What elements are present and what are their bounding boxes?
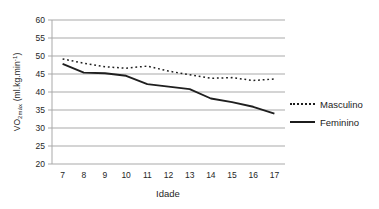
y-tick-label: 50 bbox=[36, 51, 46, 61]
x-tick-label: 14 bbox=[206, 170, 216, 180]
solid-line-sample-icon bbox=[290, 121, 315, 123]
y-axis-title-main: VO bbox=[12, 119, 22, 131]
x-axis-ticks: 7891011121314151617 bbox=[60, 170, 279, 180]
y-axis-title-subscript: 2máx bbox=[17, 104, 23, 119]
y-axis-title-unit: (ml.kg.min bbox=[12, 61, 22, 104]
masculino-line bbox=[63, 59, 275, 81]
y-tick-label: 55 bbox=[36, 33, 46, 43]
x-tick-label: 12 bbox=[164, 170, 174, 180]
x-tick-label: 15 bbox=[227, 170, 237, 180]
x-tick-label: 17 bbox=[270, 170, 280, 180]
x-tick-label: 11 bbox=[143, 170, 152, 180]
y-axis-title-unit-close: ) bbox=[12, 53, 22, 56]
x-tick-label: 9 bbox=[103, 170, 108, 180]
legend: Masculino Feminino bbox=[290, 96, 363, 132]
legend-label-feminino: Feminino bbox=[320, 117, 359, 128]
chart-figure: 2025303540455055607891011121314151617 VO… bbox=[0, 0, 379, 209]
x-axis-title: Idade bbox=[156, 188, 180, 199]
x-tick-label: 16 bbox=[248, 170, 258, 180]
y-axis-title: VO2máx (ml.kg.min-1) bbox=[12, 53, 23, 132]
legend-item-feminino: Feminino bbox=[290, 114, 363, 130]
x-tick-label: 8 bbox=[81, 170, 86, 180]
y-tick-label: 25 bbox=[36, 141, 46, 151]
y-tick-label: 20 bbox=[36, 159, 46, 169]
y-axis-title-superscript: -1 bbox=[12, 56, 18, 62]
x-tick-label: 13 bbox=[185, 170, 195, 180]
legend-item-masculino: Masculino bbox=[290, 96, 363, 112]
y-tick-label: 60 bbox=[36, 15, 46, 25]
x-tick-label: 10 bbox=[121, 170, 131, 180]
legend-label-masculino: Masculino bbox=[320, 99, 363, 110]
y-tick-label: 45 bbox=[36, 69, 46, 79]
dotted-line-sample-icon bbox=[290, 103, 315, 105]
gridlines bbox=[52, 20, 285, 164]
y-tick-label: 30 bbox=[36, 123, 46, 133]
x-tick-label: 7 bbox=[60, 170, 65, 180]
y-axis-ticks: 202530354045505560 bbox=[36, 15, 52, 169]
y-tick-label: 40 bbox=[36, 87, 46, 97]
y-tick-label: 35 bbox=[36, 105, 46, 115]
